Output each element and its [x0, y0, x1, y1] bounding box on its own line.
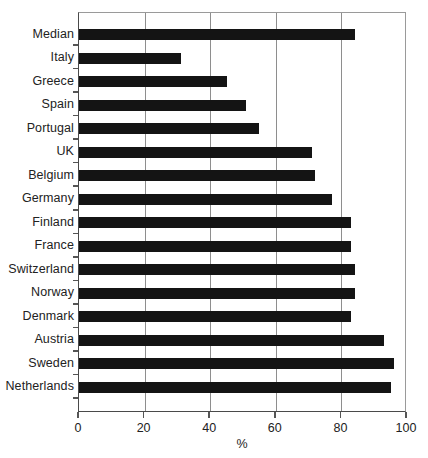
- bar: [79, 123, 259, 134]
- bar: [79, 264, 355, 275]
- x-axis-tick-60: [274, 412, 276, 418]
- x-axis-tick-80: [340, 412, 342, 418]
- y-axis-label: France: [2, 239, 74, 251]
- bar: [79, 76, 227, 87]
- y-axis-label: Finland: [2, 216, 74, 228]
- bar: [79, 382, 391, 393]
- bar: [79, 147, 312, 158]
- y-axis-tick: [73, 138, 78, 140]
- x-axis-tick-label: 100: [386, 421, 426, 435]
- x-axis-tick-label: 20: [124, 421, 164, 435]
- y-axis-tick: [73, 44, 78, 46]
- gridline-20: [145, 13, 146, 411]
- y-axis-label: Switzerland: [2, 263, 74, 275]
- y-axis-label: Spain: [2, 98, 74, 110]
- y-axis-label: Norway: [2, 286, 74, 298]
- y-axis-tick: [73, 91, 78, 93]
- y-axis-tick: [73, 303, 78, 305]
- y-axis-tick: [73, 374, 78, 376]
- bar: [79, 53, 181, 64]
- x-axis-tick-100: [405, 412, 407, 418]
- y-axis-label: Italy: [2, 51, 74, 63]
- y-axis-label: Denmark: [2, 310, 74, 322]
- y-axis-tick: [73, 209, 78, 211]
- y-axis-label: Sweden: [2, 357, 74, 369]
- y-axis-tick: [73, 185, 78, 187]
- x-axis-tick-20: [143, 412, 145, 418]
- y-axis-tick: [73, 233, 78, 235]
- x-axis-tick-label: 40: [189, 421, 229, 435]
- bar-chart: MedianItalyGreeceSpainPortugalUKBelgiumG…: [0, 0, 428, 458]
- y-axis-tick: [73, 327, 78, 329]
- y-axis-tick: [73, 350, 78, 352]
- gridline-80: [341, 13, 342, 411]
- y-axis-tick: [73, 68, 78, 70]
- y-axis-tick: [73, 115, 78, 117]
- y-axis-labels: MedianItalyGreeceSpainPortugalUKBelgiumG…: [0, 0, 74, 458]
- bar: [79, 217, 351, 228]
- x-axis-tick-label: 80: [320, 421, 360, 435]
- gridline-40: [210, 13, 211, 411]
- y-axis-label: Belgium: [2, 169, 74, 181]
- x-axis-tick-40: [208, 412, 210, 418]
- y-axis-label: Germany: [2, 192, 74, 204]
- y-axis-label: Median: [2, 28, 74, 40]
- plot-area: [78, 12, 406, 412]
- y-axis-tick: [73, 256, 78, 258]
- x-axis-tick-label: 60: [255, 421, 295, 435]
- x-axis-tick-0: [77, 412, 79, 418]
- bar: [79, 241, 351, 252]
- x-axis-tick-label: 0: [58, 421, 98, 435]
- bar: [79, 311, 351, 322]
- y-axis-tick: [73, 397, 78, 399]
- bar: [79, 335, 384, 346]
- bar: [79, 288, 355, 299]
- y-axis-label: Greece: [2, 75, 74, 87]
- gridline-60: [276, 13, 277, 411]
- bar: [79, 170, 315, 181]
- y-axis-label: Austria: [2, 333, 74, 345]
- x-axis-title: %: [222, 437, 262, 451]
- y-axis-label: Netherlands: [2, 380, 74, 392]
- bar: [79, 194, 332, 205]
- bar: [79, 29, 355, 40]
- y-axis-tick: [73, 280, 78, 282]
- y-axis-label: UK: [2, 145, 74, 157]
- y-axis-tick: [73, 162, 78, 164]
- bar: [79, 358, 394, 369]
- bar: [79, 100, 246, 111]
- y-axis-label: Portugal: [2, 122, 74, 134]
